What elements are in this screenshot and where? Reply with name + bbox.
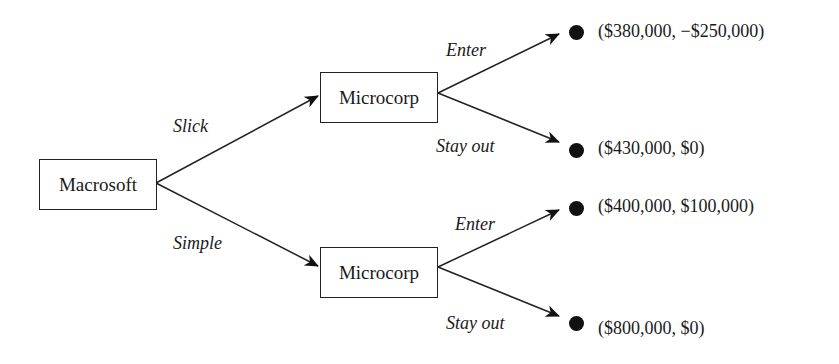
node-label: Microcorp [339,87,419,109]
terminal-node-1 [569,25,584,40]
payoff-2: ($430,000, $0) [598,138,705,159]
node-label: Microcorp [339,262,419,284]
edge-slick [156,96,318,183]
terminal-node-4 [569,316,584,331]
edge-upper-stayout [438,93,559,142]
node-microcorp-lower: Microcorp [320,247,438,298]
node-microcorp-upper: Microcorp [320,72,438,123]
action-label-upper-stayout: Stay out [436,136,495,157]
payoff-4: ($800,000, $0) [598,318,705,339]
payoff-1: ($380,000, −$250,000) [598,21,764,42]
root-node-label: Macrosoft [59,174,137,196]
action-label-upper-enter: Enter [446,40,486,61]
edge-lower-stayout [438,267,559,316]
action-label-simple: Simple [173,233,222,254]
payoff-3: ($400,000, $100,000) [598,196,754,217]
action-label-lower-enter: Enter [455,214,495,235]
action-label-slick: Slick [173,116,208,137]
root-node-macrosoft: Macrosoft [39,159,157,210]
action-label-lower-stayout: Stay out [446,313,505,334]
terminal-node-3 [569,201,584,216]
terminal-node-2 [569,143,584,158]
